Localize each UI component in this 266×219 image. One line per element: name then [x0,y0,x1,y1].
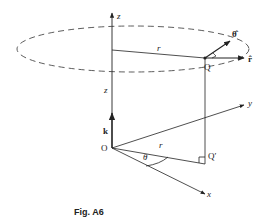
x-axis [112,148,205,194]
figure-caption: Fig. A6 [74,207,104,217]
y-axis [112,105,244,148]
x-axis-label: x [206,189,211,199]
right-angle-Q [212,53,216,58]
r-bottom-label: r [159,140,163,150]
theta-hat-vector [205,41,230,58]
r-top-label: r [157,43,161,53]
y-axis-label: y [247,98,252,108]
theta-label: θ [143,152,148,162]
theta-hat-label: θ̂ [232,29,239,39]
dashed-circle [17,26,249,72]
z-axis-label: z [116,11,121,21]
Q-prime-label: Q′ [208,151,216,161]
k-label: k [103,126,108,136]
theta-arc [146,157,168,166]
z-height-label: z [103,85,108,95]
cylindrical-coordinates-diagram: z r Q r̂ θ̂ z k O y x r Q′ θ Fig. A6 [0,0,266,219]
radius-bottom [112,148,205,164]
right-angle-Qprime [199,157,205,163]
O-label: O [101,143,108,153]
r-hat-label: r̂ [248,54,252,64]
